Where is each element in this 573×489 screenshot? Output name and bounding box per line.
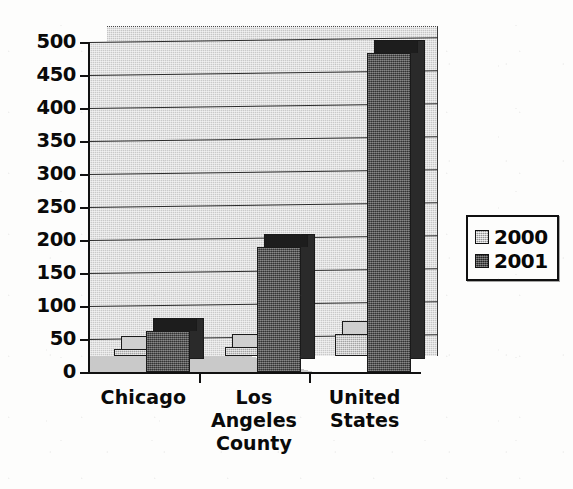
bar-top-face xyxy=(153,318,197,331)
y-tick-label-50: 50 xyxy=(50,329,76,349)
y-tick-450 xyxy=(80,75,89,77)
bar-side-face xyxy=(411,40,425,359)
y-tick-label-150: 150 xyxy=(36,263,76,283)
legend-label-2001: 2001 xyxy=(494,251,548,271)
category-label-line: Chicago xyxy=(82,386,205,409)
bar-top-face xyxy=(264,234,308,247)
y-tick-label-0: 0 xyxy=(63,362,76,382)
y-tick-label-500: 500 xyxy=(36,32,76,52)
category-label-line: States xyxy=(303,409,426,432)
bar-side-face xyxy=(301,234,315,359)
y-tick-50 xyxy=(80,339,89,341)
bar-front-face xyxy=(146,331,190,372)
y-tick-100 xyxy=(80,306,89,308)
y-tick-label-400: 400 xyxy=(36,98,76,118)
bar-front-face xyxy=(257,247,301,372)
y-tick-200 xyxy=(80,240,89,242)
category-label-line: Los xyxy=(193,386,316,409)
x-axis-line xyxy=(88,372,421,374)
bar-front-face xyxy=(367,53,411,372)
y-tick-300 xyxy=(80,174,89,176)
x-tick-1 xyxy=(199,372,201,383)
bar-united-states-2001 xyxy=(367,53,411,372)
category-label-line: Angeles xyxy=(193,409,316,432)
category-label-chicago: Chicago xyxy=(82,386,205,409)
chart-legend: 2000 2001 xyxy=(466,215,559,281)
y-tick-label-100: 100 xyxy=(36,296,76,316)
bar-top-face xyxy=(374,40,418,53)
category-label-united-states: UnitedStates xyxy=(303,386,426,432)
legend-label-2000: 2000 xyxy=(494,227,548,247)
y-tick-150 xyxy=(80,273,89,275)
y-tick-250 xyxy=(80,207,89,209)
y-tick-0 xyxy=(80,372,89,374)
category-label-line: United xyxy=(303,386,426,409)
y-tick-label-350: 350 xyxy=(36,131,76,151)
y-tick-500 xyxy=(80,42,89,44)
category-label-los-angeles-county: LosAngelesCounty xyxy=(193,386,316,456)
bar-los-angeles-county-2001 xyxy=(257,247,301,372)
bar-chicago-2001 xyxy=(146,331,190,372)
legend-item-2000: 2000 xyxy=(475,227,548,247)
y-tick-label-450: 450 xyxy=(36,65,76,85)
bar-chart: 500450400350300250200150100500 ChicagoLo… xyxy=(0,0,573,489)
y-tick-label-250: 250 xyxy=(36,197,76,217)
category-label-line: County xyxy=(193,432,316,455)
x-tick-2 xyxy=(309,372,311,383)
y-tick-label-300: 300 xyxy=(36,164,76,184)
legend-swatch-2001-icon xyxy=(475,254,489,268)
legend-item-2001: 2001 xyxy=(475,251,548,271)
legend-swatch-2000-icon xyxy=(475,230,489,244)
y-tick-350 xyxy=(80,141,89,143)
y-tick-label-200: 200 xyxy=(36,230,76,250)
y-tick-400 xyxy=(80,108,89,110)
